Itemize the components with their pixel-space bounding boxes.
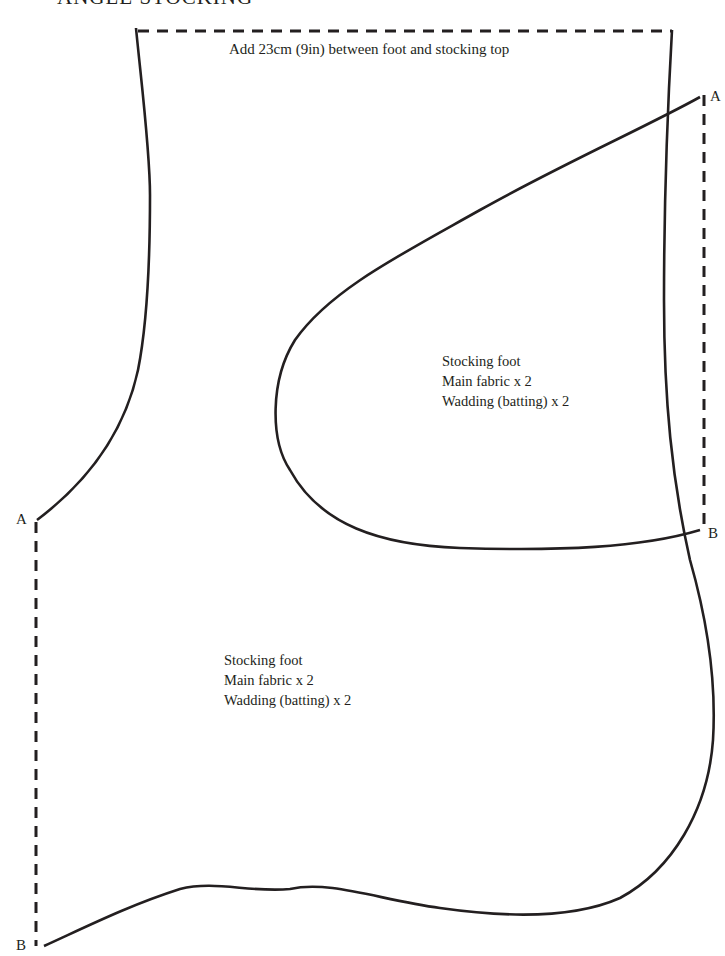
upper-piece-wadding: Wadding (batting) x 2 bbox=[442, 391, 569, 411]
upper-foot-contour bbox=[276, 97, 700, 549]
upper-piece-label: Stocking foot Main fabric x 2 Wadding (b… bbox=[442, 351, 569, 411]
marker-a-left: A bbox=[16, 512, 27, 527]
upper-piece-name: Stocking foot bbox=[442, 351, 569, 371]
right-leg-contour bbox=[44, 30, 714, 946]
lower-piece-wadding: Wadding (batting) x 2 bbox=[224, 690, 351, 710]
marker-b-right: B bbox=[708, 526, 718, 541]
lower-piece-name: Stocking foot bbox=[224, 650, 351, 670]
stocking-pattern-diagram bbox=[0, 0, 725, 956]
marker-b-left: B bbox=[16, 938, 26, 953]
marker-a-right: A bbox=[710, 89, 721, 104]
lower-piece-fabric: Main fabric x 2 bbox=[224, 670, 351, 690]
spacing-instruction: Add 23cm (9in) between foot and stocking… bbox=[229, 41, 509, 58]
lower-piece-label: Stocking foot Main fabric x 2 Wadding (b… bbox=[224, 650, 351, 710]
left-leg-contour bbox=[37, 28, 150, 520]
upper-piece-fabric: Main fabric x 2 bbox=[442, 371, 569, 391]
